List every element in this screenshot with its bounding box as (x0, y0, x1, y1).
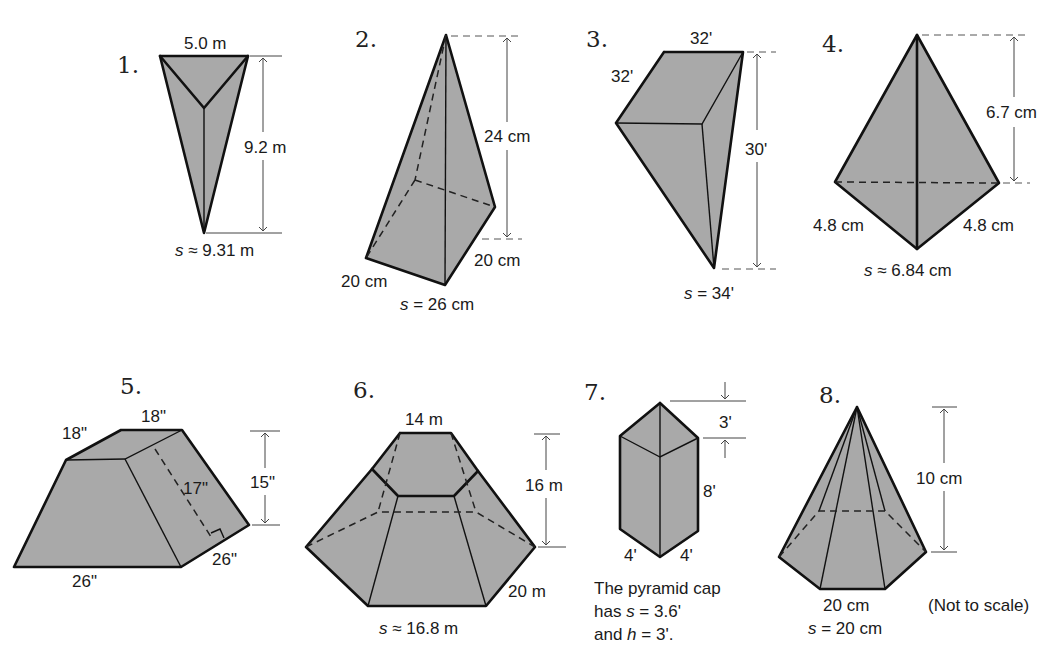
top-edge-label: 14 m (405, 410, 443, 429)
height-label: 6.7 cm (986, 103, 1037, 122)
figure-6: 6. 14 m 16 m 20 m s ≈ 16.8 m (306, 377, 566, 638)
slant-height-label: s ≈ 9.31 m (175, 241, 254, 260)
height-label: 15" (250, 473, 275, 492)
pyramid-cap-note: The pyramid cap has s = 3.6' and h = 3'. (594, 579, 721, 644)
top-right-edge-label: 18" (141, 407, 166, 426)
figure-4: 4. 6.7 cm 4.8 cm 4.8 cm s ≈ 6.84 cm (813, 31, 1037, 280)
figure-5: 5. 18" 18" 17" 15" 26" 26" (14, 373, 280, 591)
base-left-label: 4' (624, 546, 637, 565)
base-right-label: 4' (680, 546, 693, 565)
slant-height-label: s ≈ 16.8 m (379, 619, 458, 638)
slant-height-label: 17" (183, 479, 208, 498)
square-pyramid-shape (616, 52, 743, 268)
figure-7: 7. 3' 8' 4' 4' The pyramid cap has s = 3… (584, 379, 746, 644)
prism-with-pyramid-cap-shape (620, 403, 698, 557)
figure-number: 1. (117, 52, 139, 78)
base-right-label: 4.8 cm (963, 216, 1014, 235)
base-edge-label: 5.0 m (184, 34, 227, 53)
figure-1: 1. 5.0 m 9.2 m s ≈ 9.31 m (117, 34, 287, 260)
base-right-edge-label: 26" (212, 550, 237, 569)
prism-height-label: 8' (703, 482, 716, 501)
figure-number: 2. (355, 26, 377, 52)
hexagonal-frustum-shape (306, 433, 535, 606)
base-left-label: 4.8 cm (813, 216, 864, 235)
hexagonal-pyramid-shape (779, 407, 926, 589)
square-frustum-shape (14, 430, 249, 567)
figure-number: 8. (819, 382, 841, 408)
top-edge-label: 32' (690, 29, 712, 48)
height-label: 10 cm (916, 469, 962, 488)
not-to-scale-note: (Not to scale) (928, 596, 1029, 615)
figure-2: 2. 24 cm 20 cm 20 cm s = 26 cm (341, 26, 530, 314)
svg-text:has s = 3.6': has s = 3.6' (594, 602, 681, 621)
height-label: 9.2 m (244, 138, 287, 157)
top-left-edge-label: 18" (62, 424, 87, 443)
square-pyramid-shape (366, 35, 495, 285)
geometry-figures-sheet: 1. 5.0 m 9.2 m s ≈ 9.31 m 2. (0, 0, 1052, 668)
slant-height-label: s = 34' (684, 284, 734, 303)
base-edge-label: 20 cm (823, 596, 869, 615)
svg-text:and h = 3'.: and h = 3'. (594, 625, 673, 644)
figure-3: 3. 32' 32' 30' s = 34' (586, 26, 776, 303)
figure-number: 4. (822, 31, 844, 57)
base-edge-label: 20 m (508, 582, 546, 601)
height-label: 24 cm (484, 127, 530, 146)
base-front-edge-label: 26" (72, 572, 97, 591)
triangular-pyramid-shape (160, 56, 248, 233)
svg-text:The pyramid cap: The pyramid cap (594, 579, 721, 598)
base-left-label: 20 cm (341, 272, 387, 291)
height-label: 30' (745, 140, 767, 159)
figure-number: 3. (586, 26, 608, 52)
figure-number: 5. (120, 373, 142, 399)
figure-number: 6. (353, 377, 375, 403)
height-label: 16 m (525, 476, 563, 495)
base-right-label: 20 cm (474, 251, 520, 270)
left-edge-label: 32' (611, 67, 633, 86)
cap-height-label: 3' (719, 413, 732, 432)
slant-height-label: s = 20 cm (808, 619, 882, 638)
figure-number: 7. (584, 379, 606, 405)
slant-height-label: s ≈ 6.84 cm (864, 261, 952, 280)
slant-height-label: s = 26 cm (400, 295, 474, 314)
